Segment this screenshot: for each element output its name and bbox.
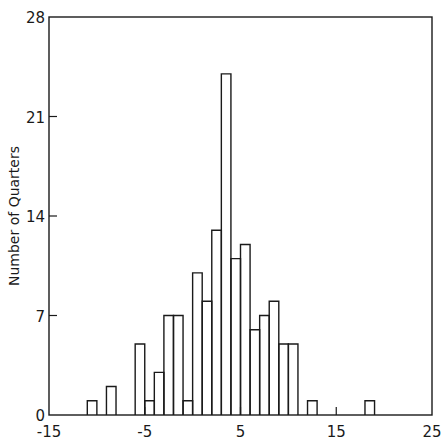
histogram-bin <box>135 344 145 415</box>
histogram-bars <box>87 74 374 415</box>
x-tick-label: 5 <box>236 423 246 441</box>
histogram-bin <box>173 316 183 416</box>
histogram-bin <box>288 344 298 415</box>
histogram-bin <box>183 401 193 415</box>
histogram-bin <box>212 230 222 415</box>
histogram-bin <box>250 330 260 415</box>
histogram-bin <box>154 372 164 415</box>
histogram-bin <box>202 301 212 415</box>
histogram-bin <box>87 401 97 415</box>
histogram-bin <box>308 401 318 415</box>
x-tick-label: -15 <box>37 423 62 441</box>
y-axis-ticks: 07142128 <box>26 9 57 425</box>
histogram-bin <box>164 316 174 416</box>
histogram-bin <box>365 401 375 415</box>
y-tick-label: 7 <box>35 308 45 326</box>
histogram-bin <box>106 387 116 415</box>
histogram-bin <box>260 316 270 416</box>
y-tick-label: 0 <box>35 407 45 425</box>
histogram-bin <box>193 273 203 415</box>
histogram-bin <box>145 401 155 415</box>
histogram-bin <box>221 74 231 415</box>
x-tick-label: 15 <box>327 423 346 441</box>
histogram-chart: -15-551525 07142128 Number of Quarters <box>0 0 445 442</box>
x-tick-label: -5 <box>137 423 152 441</box>
y-tick-label: 14 <box>26 208 45 226</box>
y-tick-label: 28 <box>26 9 45 27</box>
histogram-bin <box>241 244 251 415</box>
y-axis-label: Number of Quarters <box>6 146 22 286</box>
histogram-bin <box>231 259 241 415</box>
y-tick-label: 21 <box>26 109 45 127</box>
histogram-bin <box>279 344 289 415</box>
histogram-bin <box>269 301 279 415</box>
x-tick-label: 25 <box>422 423 441 441</box>
